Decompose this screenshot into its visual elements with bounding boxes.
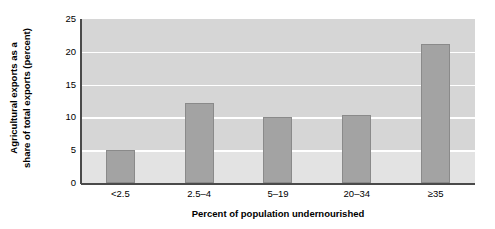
- y-axis-title-line-1: Agricultural exports as a: [7, 28, 20, 168]
- bar-slot-1: [160, 19, 239, 183]
- y-tick-label-20: 20: [52, 47, 76, 57]
- x-tick-label-4: ≥35: [396, 188, 475, 202]
- plot-area: [81, 19, 475, 183]
- y-tick-label-10: 10: [52, 112, 76, 122]
- x-tick-label-2: 5–19: [239, 188, 318, 202]
- y-tick-label-0: 0: [52, 178, 76, 188]
- bar-series: [81, 19, 475, 183]
- bar-slot-0: [81, 19, 160, 183]
- y-axis-tick-labels: 25 20 15 10 5 0: [52, 0, 76, 229]
- y-tick-label-5: 5: [52, 145, 76, 155]
- bar-gte-35: [421, 44, 450, 183]
- x-tick-label-0: <2.5: [81, 188, 160, 202]
- y-tick-label-25: 25: [52, 14, 76, 24]
- y-axis-title-line-2: share of total exports (percent): [20, 28, 33, 168]
- y-axis-line: [80, 19, 82, 184]
- x-tick-label-1: 2.5–4: [160, 188, 239, 202]
- x-tick-label-3: 20–34: [317, 188, 396, 202]
- bar-slot-3: [317, 19, 396, 183]
- bar-2-5-to-4: [185, 103, 214, 183]
- bar-chart-figure: Agricultural exports as a share of total…: [0, 0, 495, 229]
- y-tick-label-15: 15: [52, 80, 76, 90]
- x-axis-line: [81, 183, 475, 185]
- bar-lt-2-5: [106, 150, 135, 183]
- bar-5-to-19: [263, 117, 292, 183]
- x-axis-title: Percent of population undernourished: [81, 208, 475, 220]
- bar-20-to-34: [342, 115, 371, 183]
- bar-slot-2: [239, 19, 318, 183]
- x-axis-tick-labels: <2.5 2.5–4 5–19 20–34 ≥35: [81, 188, 475, 202]
- bar-slot-4: [396, 19, 475, 183]
- y-axis-title: Agricultural exports as a share of total…: [0, 0, 40, 195]
